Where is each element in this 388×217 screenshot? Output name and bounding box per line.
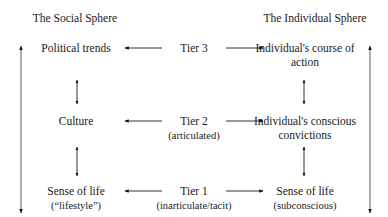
- social-sphere-header: The Social Sphere: [33, 11, 117, 25]
- social-political-trends: Political trends: [41, 41, 110, 55]
- individual-course-of-action-line2: action: [291, 55, 319, 69]
- individual-conscious-convictions-line2: convictions: [278, 128, 331, 142]
- tier1-label: Tier 1: [180, 184, 207, 198]
- tier3-label: Tier 3: [180, 41, 207, 55]
- tier1-note: (inarticulate/tacit): [156, 199, 231, 213]
- individual-sense-of-life-line2: (subconscious): [274, 199, 337, 213]
- individual-sense-of-life-line1: Sense of life: [276, 184, 333, 198]
- social-culture: Culture: [59, 114, 94, 128]
- tier2-note: (articulated): [168, 129, 219, 143]
- individual-sphere-header: The Individual Sphere: [264, 11, 367, 25]
- social-sense-of-life-line2: (“lifestyle”): [51, 199, 101, 213]
- tier2-label: Tier 2: [180, 114, 207, 128]
- individual-conscious-convictions-line1: Individual's conscious: [254, 114, 356, 128]
- individual-course-of-action-line1: Individual's course of: [255, 41, 354, 55]
- social-sense-of-life-line1: Sense of life: [47, 184, 104, 198]
